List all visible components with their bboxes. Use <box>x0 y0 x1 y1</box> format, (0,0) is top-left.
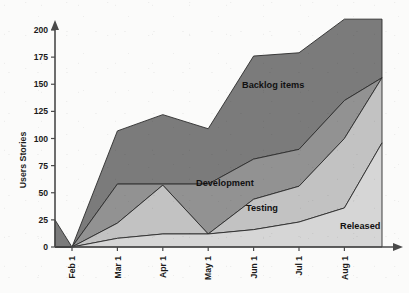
y-tick-label: 100 <box>34 134 49 144</box>
label-backlog-items: Backlog items <box>242 80 304 90</box>
y-tick-label: 0 <box>43 242 48 252</box>
y-tick-label: 150 <box>34 79 49 89</box>
label-released: Released <box>340 221 380 231</box>
y-tick-label: 125 <box>34 106 49 116</box>
y-tick-label: 200 <box>34 25 49 35</box>
chart-svg: Backlog items Development Testing Releas… <box>0 0 409 293</box>
x-tick-label: May 1 <box>203 256 213 280</box>
x-tick-label: Aug 1 <box>340 256 350 280</box>
y-tick-label: 175 <box>34 52 49 62</box>
x-tick-label: Apr 1 <box>158 256 168 278</box>
x-tick-label: Jul 1 <box>294 256 304 276</box>
y-tick-label: 75 <box>38 161 48 171</box>
x-tick-label: Feb 1 <box>67 256 77 279</box>
x-tick-label: Mar 1 <box>113 256 123 279</box>
y-axis-title: Users Stories <box>18 132 28 189</box>
label-testing: Testing <box>246 203 278 213</box>
cumulative-flow-chart: Backlog items Development Testing Releas… <box>0 0 409 293</box>
x-tick-label: Jun 1 <box>249 256 259 279</box>
label-development: Development <box>196 178 254 188</box>
y-tick-label: 50 <box>38 188 48 198</box>
y-tick-label: 25 <box>38 215 48 225</box>
